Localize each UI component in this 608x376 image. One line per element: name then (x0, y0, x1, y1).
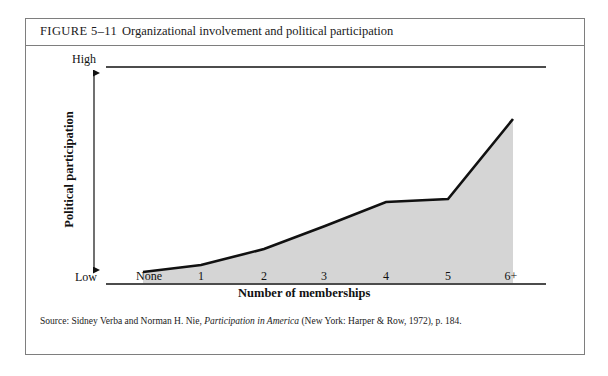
x-tick-label-5: 5 (424, 269, 472, 284)
figure-frame: FIGURE 5–11 Organizational involvement a… (25, 18, 585, 355)
y-axis-low-label: Low (75, 270, 97, 285)
x-tick-label-3: 3 (300, 269, 348, 284)
y-axis-title: Political participation (62, 105, 77, 235)
source-suffix: (New York: Harper & Row, 1972), p. 184. (299, 316, 462, 326)
figure-root: FIGURE 5–11 Organizational involvement a… (0, 0, 608, 376)
x-tick-label-4: 4 (362, 269, 410, 284)
y-axis-high-label: High (72, 52, 96, 67)
source-prefix: Source: Sidney Verba and Norman H. Nie, (40, 316, 204, 326)
source-note: Source: Sidney Verba and Norman H. Nie, … (40, 316, 462, 326)
figure-title: Organizational involvement and political… (122, 24, 393, 39)
x-axis-title: Number of memberships (238, 286, 370, 301)
area-fill (143, 119, 513, 283)
x-tick-label-2: 2 (240, 269, 288, 284)
chart-plot-area (26, 46, 584, 354)
figure-title-bar: FIGURE 5–11 Organizational involvement a… (26, 19, 584, 46)
x-tick-label-1: 1 (177, 269, 225, 284)
x-tick-label-none: None (125, 269, 173, 284)
x-tick-label-6plus: 6+ (487, 269, 535, 284)
figure-number-label: FIGURE 5–11 (40, 24, 117, 39)
source-work-title: Participation in America (204, 316, 299, 326)
